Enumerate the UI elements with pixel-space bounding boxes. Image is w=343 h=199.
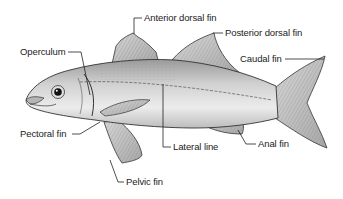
label-anterior-dorsal-fin: Anterior dorsal fin — [144, 13, 217, 23]
label-posterior-dorsal-fin: Posterior dorsal fin — [225, 28, 302, 38]
eye-icon — [52, 86, 65, 99]
label-operculum: Operculum — [20, 47, 66, 57]
label-caudal-fin: Caudal fin — [240, 54, 282, 64]
fish-anatomy-diagram: Anterior dorsal fin Posterior dorsal fin… — [0, 0, 343, 199]
pelvic-fin — [104, 120, 142, 163]
label-lateral-line: Lateral line — [173, 142, 218, 152]
leader-anterior-dorsal-fin — [134, 18, 142, 34]
label-anal-fin: Anal fin — [258, 139, 289, 149]
label-pelvic-fin: Pelvic fin — [126, 177, 163, 187]
leader-pectoral-fin — [72, 122, 100, 134]
label-pectoral-fin: Pectoral fin — [20, 129, 66, 139]
caudal-fin — [275, 56, 327, 148]
